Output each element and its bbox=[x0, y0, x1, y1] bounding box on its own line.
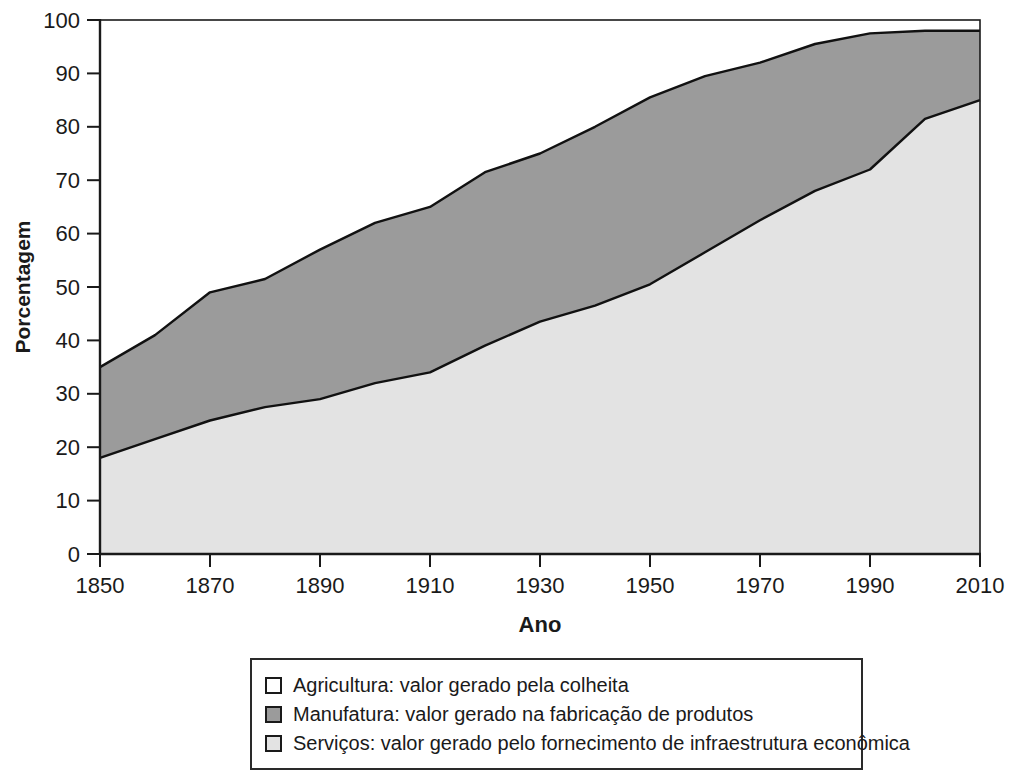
legend-label-servicos: Serviços: valor gerado pelo fornecimento… bbox=[293, 732, 910, 755]
x-tick-label: 1930 bbox=[516, 573, 565, 598]
stacked-area-chart: 0102030405060708090100185018701890191019… bbox=[0, 0, 1016, 650]
y-tick-label: 80 bbox=[56, 114, 80, 139]
y-tick-label: 50 bbox=[56, 275, 80, 300]
x-tick-label: 1990 bbox=[846, 573, 895, 598]
y-tick-label: 30 bbox=[56, 381, 80, 406]
y-tick-label: 20 bbox=[56, 435, 80, 460]
y-tick-label: 70 bbox=[56, 168, 80, 193]
x-tick-label: 1970 bbox=[736, 573, 785, 598]
x-tick-label: 1870 bbox=[186, 573, 235, 598]
y-tick-label: 60 bbox=[56, 221, 80, 246]
x-tick-label: 1890 bbox=[296, 573, 345, 598]
legend-item: Serviços: valor gerado pelo fornecimento… bbox=[265, 729, 849, 758]
legend-item: Agricultura: valor gerado pela colheita bbox=[265, 671, 849, 700]
legend-swatch-manufatura bbox=[265, 706, 282, 723]
y-tick-label: 100 bbox=[43, 8, 80, 33]
x-tick-label: 2010 bbox=[956, 573, 1005, 598]
y-axis-title: Porcentagem bbox=[11, 220, 34, 353]
y-tick-label: 0 bbox=[68, 542, 80, 567]
page: 0102030405060708090100185018701890191019… bbox=[0, 0, 1016, 784]
legend-label-agricultura: Agricultura: valor gerado pela colheita bbox=[293, 674, 629, 697]
y-tick-label: 90 bbox=[56, 61, 80, 86]
y-tick-label: 10 bbox=[56, 488, 80, 513]
y-tick-label: 40 bbox=[56, 328, 80, 353]
legend-label-manufatura: Manufatura: valor gerado na fabricação d… bbox=[293, 703, 753, 726]
x-axis-title: Ano bbox=[519, 612, 562, 637]
chart-area: 0102030405060708090100185018701890191019… bbox=[0, 0, 1016, 650]
legend-swatch-servicos bbox=[265, 735, 282, 752]
x-tick-label: 1910 bbox=[406, 573, 455, 598]
x-tick-label: 1950 bbox=[626, 573, 675, 598]
x-tick-label: 1850 bbox=[76, 573, 125, 598]
legend-swatch-agricultura bbox=[265, 677, 282, 694]
legend: Agricultura: valor gerado pela colheita … bbox=[250, 658, 863, 770]
legend-item: Manufatura: valor gerado na fabricação d… bbox=[265, 700, 849, 729]
